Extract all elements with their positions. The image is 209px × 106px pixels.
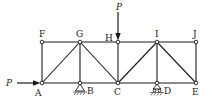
load-arrow-H [115, 12, 120, 41]
joint-label-D: D [164, 86, 171, 96]
joint-G [78, 40, 82, 44]
pin-support-B [73, 84, 87, 95]
joint-label-G: G [76, 29, 83, 39]
load-arrow-A [17, 80, 41, 85]
joint-J [194, 40, 198, 44]
joint-H [116, 40, 120, 44]
load-label-A: P [5, 78, 13, 88]
load-label-H: P [115, 2, 123, 12]
joint-A [40, 81, 44, 85]
truss-members [42, 42, 196, 83]
joint-E [194, 81, 198, 85]
joint-C [116, 81, 120, 85]
joint-label-A: A [34, 88, 42, 98]
joint-label-B: B [87, 86, 94, 96]
roller-support-D [150, 84, 164, 96]
arrowhead-icon [115, 33, 120, 41]
joint-F [40, 40, 44, 44]
truss-svg: P P F G H I J A B C D E [0, 0, 209, 106]
joint-label-E: E [192, 87, 199, 97]
joint-label-J: J [192, 29, 197, 39]
joint-label-H: H [105, 33, 113, 43]
joint-B [78, 81, 82, 85]
member-GC [80, 42, 118, 83]
truss-diagram: P P F G H I J A B C D E [0, 0, 209, 106]
joint-label-I: I [155, 29, 159, 39]
joint-I [155, 40, 159, 44]
truss-joints [40, 40, 198, 85]
arrowhead-icon [33, 80, 41, 85]
member-AG [42, 42, 80, 83]
joint-D [155, 81, 159, 85]
joint-label-C: C [114, 87, 121, 97]
joint-label-F: F [39, 29, 45, 39]
member-CI [118, 42, 157, 83]
member-IE [157, 42, 196, 83]
